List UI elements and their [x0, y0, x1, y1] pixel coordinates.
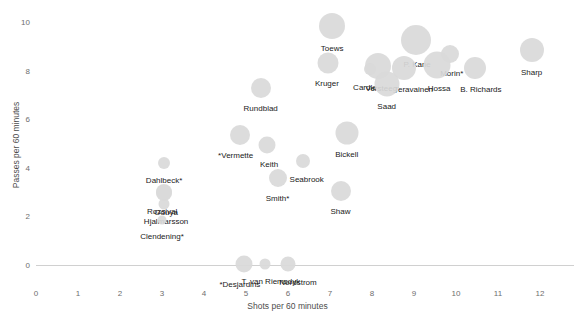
data-point[interactable] — [317, 53, 338, 74]
y-tick-label: 2 — [18, 212, 30, 221]
data-point[interactable] — [374, 71, 399, 96]
data-point[interactable] — [335, 121, 358, 144]
data-point-label: Shaw — [330, 207, 350, 216]
zero-baseline — [36, 265, 574, 266]
data-point[interactable] — [281, 256, 296, 271]
x-tick-label: 4 — [202, 289, 206, 298]
data-point[interactable] — [259, 136, 276, 153]
x-tick-label: 6 — [286, 289, 290, 298]
scatter-chart: ToewsP. KaneMorin*SharpKrugerVersteegTer… — [0, 0, 575, 317]
data-point[interactable] — [319, 13, 345, 39]
data-point[interactable] — [230, 125, 250, 145]
data-point[interactable] — [464, 57, 486, 79]
data-point[interactable] — [424, 51, 451, 78]
data-point-label: Toews — [321, 44, 344, 53]
data-point-label: Seabrook — [290, 175, 324, 184]
data-point[interactable] — [235, 255, 252, 272]
y-axis-title: Passes per 60 minutes — [11, 85, 21, 205]
y-tick-label: 4 — [18, 163, 30, 172]
data-point-label: Sharp — [521, 68, 542, 77]
x-tick-label: 11 — [494, 289, 502, 298]
data-point[interactable] — [158, 216, 167, 225]
x-tick-label: 3 — [160, 289, 164, 298]
data-point-label: Kruger — [315, 79, 339, 88]
x-tick-label: 8 — [370, 289, 374, 298]
x-tick-label: 10 — [452, 289, 461, 298]
data-point[interactable] — [296, 154, 310, 168]
x-tick-label: 0 — [34, 289, 38, 298]
data-point-label: Smith* — [266, 194, 290, 203]
data-point[interactable] — [331, 181, 351, 201]
x-tick-label: 1 — [76, 289, 80, 298]
data-point[interactable] — [158, 157, 170, 169]
data-point[interactable] — [159, 199, 170, 210]
x-tick-label: 2 — [118, 289, 122, 298]
y-tick-label: 8 — [18, 66, 30, 75]
x-tick-label: 9 — [412, 289, 416, 298]
data-point-label: Cardle — [353, 83, 377, 92]
data-point[interactable] — [269, 169, 287, 187]
data-point-label: Hossa — [428, 84, 451, 93]
plot-area: ToewsP. KaneMorin*SharpKrugerVersteegTer… — [0, 0, 575, 317]
data-point-label: Nordstrom — [279, 278, 316, 287]
data-point-label: Saad — [377, 102, 396, 111]
data-point[interactable] — [259, 258, 270, 269]
y-tick-label: 10 — [18, 18, 30, 27]
data-point-label: *Vermette — [218, 151, 253, 160]
y-tick-label: 6 — [18, 115, 30, 124]
x-tick-label: 12 — [536, 289, 545, 298]
y-tick-label: 0 — [18, 261, 30, 270]
data-point-label: B. Richards — [460, 85, 501, 94]
data-point-label: Rundblad — [244, 104, 278, 113]
data-point[interactable] — [520, 38, 544, 62]
x-axis-title: Shots per 60 minutes — [0, 301, 575, 311]
data-point-label: Bickell — [335, 150, 358, 159]
x-tick-label: 5 — [244, 289, 248, 298]
data-point-label: Keith — [260, 160, 278, 169]
data-point[interactable] — [401, 25, 431, 55]
data-point[interactable] — [364, 63, 376, 75]
data-point[interactable] — [251, 78, 271, 98]
x-tick-label: 7 — [328, 289, 332, 298]
data-point-label: Clendening* — [140, 232, 184, 241]
